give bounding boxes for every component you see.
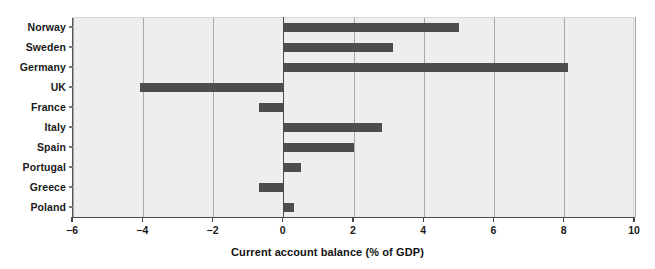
category-label-italy: Italy [0,122,66,133]
x-axis-tick-label: 4 [420,224,426,236]
x-axis-tick-label: 10 [628,224,640,236]
x-axis-tick-label: 0 [280,224,286,236]
zero-line [283,17,284,217]
category-label-norway: Norway [0,22,66,33]
x-axis-tick [493,217,494,222]
x-axis-tick [282,217,283,222]
x-axis-tick [212,217,213,222]
y-axis-tick [69,106,73,107]
category-label-germany: Germany [0,62,66,73]
bar [284,143,354,152]
gridline [213,17,214,217]
plot-border-right [633,17,634,217]
x-axis-tick-label: 2 [350,224,356,236]
bar [284,23,460,32]
x-axis-tick-label: −2 [207,224,219,236]
bar [284,203,295,212]
gridline [424,17,425,217]
bar-chart: NorwaySwedenGermanyUKFranceItalySpainPor… [0,0,655,269]
y-axis-tick [69,206,73,207]
category-label-greece: Greece [0,182,66,193]
plot-area [72,17,635,217]
y-axis-tick [69,166,73,167]
y-axis-tick [69,126,73,127]
y-axis-tick [69,86,73,87]
category-label-sweden: Sweden [0,42,66,53]
bar [284,63,569,72]
category-label-poland: Poland [0,202,66,213]
bar [259,183,284,192]
category-label-portugal: Portugal [0,162,66,173]
bar [284,123,382,132]
x-axis-tick [563,217,564,222]
bar [140,83,284,92]
bar [259,103,284,112]
y-axis-tick [69,146,73,147]
bar [284,163,302,172]
gridline [564,17,565,217]
y-axis-tick [69,186,73,187]
y-axis-tick [69,46,73,47]
bar [284,43,393,52]
x-axis-tick [71,217,72,222]
category-axis-labels: NorwaySwedenGermanyUKFranceItalySpainPor… [0,17,66,217]
x-axis-tick-label: −4 [136,224,148,236]
gridline [494,17,495,217]
gridline [143,17,144,217]
x-axis-title: Current account balance (% of GDP) [0,246,655,258]
y-axis-tick [69,66,73,67]
gridline [635,17,636,217]
x-axis-tick-label: 8 [561,224,567,236]
category-label-france: France [0,102,66,113]
x-axis-tick-label: −6 [66,224,78,236]
x-axis-tick [352,217,353,222]
category-label-spain: Spain [0,142,66,153]
x-axis-tick-label: 6 [491,224,497,236]
category-label-uk: UK [0,82,66,93]
plot-border-top [72,17,634,18]
x-axis-tick [423,217,424,222]
y-axis-tick [69,26,73,27]
x-axis-tick [142,217,143,222]
x-axis-tick [633,217,634,222]
